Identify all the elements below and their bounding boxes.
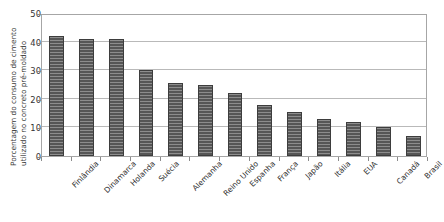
x-tick-label: Itália	[334, 160, 353, 179]
y-tick-label: 20	[7, 96, 41, 104]
bar	[228, 93, 243, 156]
x-tick-label: Finlândia	[71, 160, 100, 189]
y-tick-label: 50	[7, 10, 41, 18]
x-tick-label: Brasil	[423, 160, 443, 180]
bar	[257, 105, 272, 156]
y-tick-label: 0	[7, 153, 41, 161]
bar	[109, 39, 124, 156]
bar	[79, 39, 94, 156]
bar	[198, 85, 213, 157]
gridline	[42, 41, 426, 42]
gridline	[42, 69, 426, 70]
x-tick-label: Canadá	[396, 160, 422, 186]
x-tick-label: Suécia	[157, 160, 180, 183]
bar	[406, 136, 421, 156]
y-tick-label: 40	[7, 38, 41, 46]
bar	[168, 83, 183, 156]
bar	[49, 36, 64, 156]
y-tick-label: 10	[7, 124, 41, 132]
bar	[287, 112, 302, 156]
y-axis-ticks: 01020304050	[0, 14, 41, 157]
x-tick-label: França	[276, 160, 299, 183]
x-tick-label: Alemanha	[191, 160, 223, 192]
x-tick-label: Japão	[305, 160, 325, 180]
x-axis-labels: FinlândiaDinamarcaHolandaSuéciaAlemanhaR…	[41, 160, 441, 222]
bar	[346, 122, 361, 156]
plot-area	[41, 14, 427, 157]
bar	[317, 119, 332, 156]
bar	[376, 127, 391, 156]
y-tick-label: 30	[7, 67, 41, 75]
x-tick-label: EUA	[362, 160, 378, 176]
bar	[139, 70, 154, 156]
